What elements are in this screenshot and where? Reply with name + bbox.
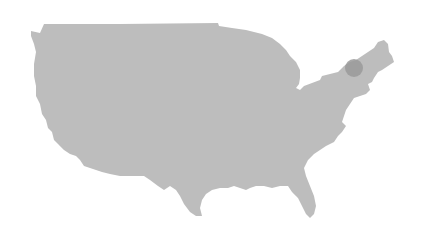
us-map [0,0,421,235]
location-marker[interactable] [345,59,363,77]
map-container [0,0,421,235]
us-landmass [31,23,394,218]
